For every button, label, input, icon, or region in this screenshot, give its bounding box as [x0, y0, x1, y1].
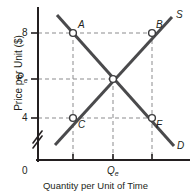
x-tick-label-qe-base: Q — [107, 165, 115, 176]
x-axis-title: Quantity per Unit of Time — [0, 181, 191, 191]
x-tick-label-qe: Qe — [107, 166, 119, 176]
marker-point-equilibrium — [110, 76, 117, 83]
guide-lines — [38, 33, 155, 160]
marker-point-c — [70, 115, 77, 122]
marker-point-f — [149, 115, 156, 122]
origin-label-0: 0 — [22, 166, 28, 176]
point-label-c: C — [78, 120, 85, 130]
point-label-f: F — [156, 120, 162, 130]
marker-point-b — [149, 30, 156, 37]
supply-demand-chart: 8 Pe 4 0 Qe S D A B C F Price per Unit (… — [0, 0, 191, 193]
supply-curve-label: S — [176, 10, 183, 20]
point-label-a: A — [78, 20, 85, 30]
marker-point-a — [70, 30, 77, 37]
point-label-b: B — [156, 20, 163, 30]
y-axis-title-wrapper: Price per Unit ($) — [8, 23, 26, 123]
x-tick-label-qe-sub: e — [115, 170, 119, 177]
y-axis-title: Price per Unit ($) — [13, 35, 24, 111]
demand-curve-label: D — [177, 141, 184, 151]
